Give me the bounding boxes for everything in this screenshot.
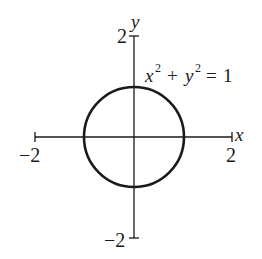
x-min-label: −2 xyxy=(19,144,40,166)
equation-y: y xyxy=(183,65,194,86)
y-max-label: 2 xyxy=(117,25,127,47)
equation-x-exponent: 2 xyxy=(155,61,161,75)
x-max-label: 2 xyxy=(226,144,236,166)
equation-plus: + xyxy=(167,65,178,86)
x-axis-label: x xyxy=(234,124,244,145)
equation-rhs: 1 xyxy=(223,65,233,86)
equation-y-exponent: 2 xyxy=(195,61,201,75)
equation-equals: = xyxy=(206,65,217,86)
y-axis-label: y xyxy=(129,11,140,32)
equation-label: x 2 + y 2 = 1 xyxy=(144,61,233,86)
equation-x: x xyxy=(144,65,154,86)
circle-diagram: x y −2 2 2 −2 x 2 + y 2 = 1 xyxy=(0,0,262,259)
y-min-label: −2 xyxy=(104,229,125,251)
